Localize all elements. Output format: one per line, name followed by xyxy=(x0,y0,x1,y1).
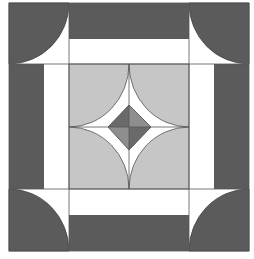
corner-bottom-right xyxy=(189,189,249,251)
corner-top-left xyxy=(9,3,69,64)
band-right xyxy=(189,64,249,189)
corner-bottom-left xyxy=(9,189,69,251)
band-bottom xyxy=(69,189,189,251)
corner-top-right xyxy=(189,3,249,64)
band-left xyxy=(9,64,69,189)
quilt-block-figure xyxy=(0,0,254,259)
band-top xyxy=(69,3,189,64)
